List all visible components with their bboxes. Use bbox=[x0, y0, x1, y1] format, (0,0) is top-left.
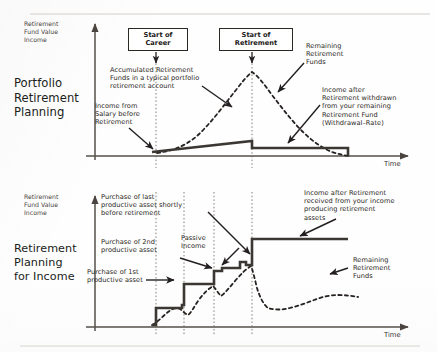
callout-start-of-career: Start of Career bbox=[128, 28, 188, 51]
annotation-income-after-retirement-assets: Income after Retirement received from yo… bbox=[304, 189, 395, 222]
top-x-axis-label: Time bbox=[384, 160, 401, 168]
annotation-purchase-1st-asset: Purchase of 1st productive asset bbox=[87, 268, 143, 284]
annotation-passive-income: Passive Income bbox=[181, 234, 206, 250]
arrow-income-from-salary bbox=[129, 128, 153, 149]
bottom-income-step-line bbox=[152, 239, 348, 325]
annotation-purchase-2nd-asset: Purchase of 2nd productive asset bbox=[101, 238, 157, 254]
annotation-accumulated-retirement-funds: Accumulated Retirement Funds in a typica… bbox=[110, 66, 199, 91]
top-income-line bbox=[152, 141, 348, 156]
annotation-income-from-salary: Income from Salary before Retirement bbox=[95, 102, 140, 127]
top-y-axis-label: Retirement Fund Value Income bbox=[24, 20, 58, 44]
annotation-remaining-retirement-funds: Remaining Retirement Funds bbox=[306, 42, 343, 67]
arrow-accumulated-funds bbox=[202, 86, 232, 107]
annotation-remaining-funds-bottom: Remaining Retirement Funds bbox=[353, 256, 390, 281]
annotation-purchase-last-asset: Purchase of last productive asset shortl… bbox=[101, 193, 182, 218]
bottom-y-axis-label: Retirement Fund Value Income bbox=[24, 193, 58, 217]
arrow-remaining-funds-bottom bbox=[330, 268, 348, 274]
arrow-income-after-retirement bbox=[288, 105, 320, 143]
callout-start-of-retirement: Start of Retirement bbox=[219, 28, 293, 51]
panel-retirement-planning-for-income: Retirement Fund Value Income Retirement … bbox=[0, 176, 437, 352]
annotation-income-after-retirement: Income after Retirement withdrawn from y… bbox=[322, 86, 397, 127]
bottom-x-axis-label: Time bbox=[384, 331, 401, 339]
panel-portfolio-retirement-planning: Retirement Fund Value Income Portfolio R… bbox=[0, 0, 437, 176]
arrow-purchase-2nd-asset bbox=[180, 258, 212, 268]
arrow-passive-income bbox=[222, 248, 239, 265]
arrow-remaining-funds bbox=[278, 63, 304, 92]
top-panel-title: Portfolio Retirement Planning bbox=[14, 76, 79, 120]
bottom-panel-title: Retirement Planning for Income bbox=[14, 242, 77, 285]
